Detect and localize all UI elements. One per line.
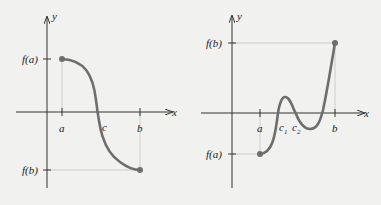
diagram-canvas: y x a b c f(a) f(b) y x a b c1 c2 f(b) f… [0, 0, 381, 205]
y-label: y [236, 10, 242, 22]
point-label-c: c [102, 121, 107, 133]
tick-label-b: b [332, 122, 338, 134]
endpoint-b [137, 167, 143, 173]
endpoint-b [332, 40, 338, 46]
y-label: y [51, 10, 57, 22]
tick-label-fb: f(b) [22, 164, 38, 177]
point-label-c1: c1 [279, 121, 287, 136]
tick-label-b: b [137, 122, 143, 134]
tick-label-fb: f(b) [206, 37, 222, 50]
x-label: x [171, 106, 177, 118]
tick-label-fa: f(a) [206, 148, 222, 161]
endpoint-a [257, 151, 263, 157]
tick-label-fa: f(a) [22, 53, 38, 66]
left-figure: y x a b c f(a) f(b) [16, 10, 177, 188]
x-label: x [363, 107, 369, 119]
tick-label-a: a [59, 122, 65, 134]
ivt-diagram: y x a b c f(a) f(b) y x a b c1 c2 f(b) f… [0, 0, 381, 205]
right-figure: y x a b c1 c2 f(b) f(a) [201, 10, 369, 188]
tick-label-a: a [257, 122, 263, 134]
curve [62, 59, 140, 170]
curve [260, 43, 335, 154]
endpoint-a [59, 56, 65, 62]
